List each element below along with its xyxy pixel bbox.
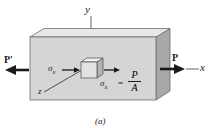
y-axis-label: y — [85, 4, 90, 15]
sigma-left-label: σx — [48, 64, 55, 75]
force-right-label: P — [172, 53, 178, 63]
axial-stress-figure: y x z P' P σx σx = P A (a) — [0, 0, 209, 134]
fraction-denominator: A — [128, 83, 141, 94]
stress-formula-fraction: P A — [128, 70, 141, 93]
z-axis-label: z — [38, 87, 42, 96]
figure-caption: (a) — [95, 117, 106, 126]
force-left-arrow — [5, 65, 29, 75]
equals-sign: = — [118, 79, 123, 88]
fraction-numerator: P — [128, 70, 141, 81]
sigma-right-label: σx — [100, 79, 107, 90]
sigma-right-subscript: x — [104, 83, 107, 90]
x-axis-label: x — [200, 62, 205, 73]
block-top-face — [30, 29, 170, 38]
figure-graphics — [0, 0, 209, 134]
stress-cube-front-face — [81, 62, 97, 78]
sigma-left-subscript: x — [52, 68, 55, 75]
force-left-label: P' — [4, 55, 13, 65]
block-side-face — [156, 29, 170, 101]
